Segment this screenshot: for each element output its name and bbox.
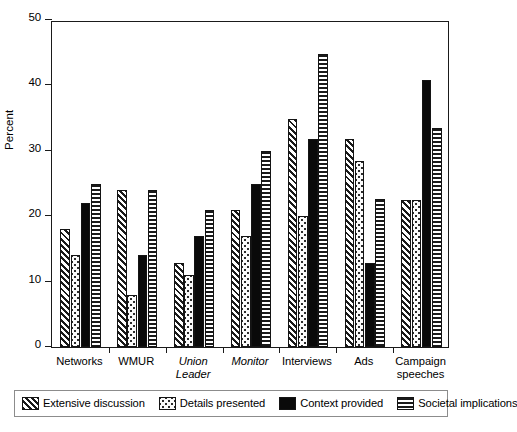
bar <box>308 139 318 347</box>
x-axis-tick <box>166 347 167 353</box>
legend-label: Details presented <box>180 398 265 409</box>
x-axis-labels: NetworksWMURUnionLeaderMonitorInterviews… <box>51 355 449 391</box>
x-axis-label-line: WMUR <box>108 355 165 368</box>
bar <box>174 263 184 347</box>
legend-swatch <box>159 397 176 410</box>
x-axis-label-line: Campaign <box>392 355 449 368</box>
x-axis-tick <box>279 347 280 353</box>
bar <box>261 151 271 347</box>
x-axis-label-line: Leader <box>165 368 222 381</box>
x-axis-tick <box>109 347 110 353</box>
x-axis-label: UnionLeader <box>165 355 222 380</box>
legend-label: Context provided <box>300 398 383 409</box>
x-axis-tick <box>223 347 224 353</box>
bar <box>81 203 91 347</box>
x-axis-label: Monitor <box>222 355 279 368</box>
bar <box>184 275 194 347</box>
bar <box>148 190 158 347</box>
x-axis-label: Interviews <box>278 355 335 368</box>
x-axis-label-line: Monitor <box>222 355 279 368</box>
legend-label: Societal implications <box>418 398 517 409</box>
legend-item: Context provided <box>279 397 383 410</box>
y-axis-tick-label: 10 <box>28 274 41 286</box>
chart-legend: Extensive discussionDetails presentedCon… <box>14 390 448 417</box>
bar-group <box>223 22 280 347</box>
bar <box>241 236 251 347</box>
plot-area: 01020304050 <box>51 21 449 348</box>
y-axis-tick-label: 50 <box>28 12 41 24</box>
bar <box>375 199 385 347</box>
legend-swatch <box>22 397 39 410</box>
legend-swatch <box>279 397 296 410</box>
y-axis-tick-label: 20 <box>28 208 41 220</box>
x-axis-tick <box>393 347 394 353</box>
bar <box>60 229 70 347</box>
bar <box>231 210 241 347</box>
legend-label: Extensive discussion <box>43 398 145 409</box>
y-axis-title: Percent <box>3 110 15 150</box>
y-axis-tick: 40 <box>45 84 52 85</box>
bar <box>205 210 215 347</box>
bar <box>432 128 442 347</box>
bar <box>138 255 148 347</box>
bar-group <box>279 22 336 347</box>
x-axis-label-line: speeches <box>392 368 449 381</box>
x-axis-label-line: Interviews <box>278 355 335 368</box>
bars-layer <box>52 22 448 347</box>
y-axis-tick: 0 <box>45 346 52 347</box>
legend-item: Details presented <box>159 397 265 410</box>
bar <box>288 119 298 347</box>
y-axis-tick-label: 0 <box>35 339 41 351</box>
legend-item: Extensive discussion <box>22 397 145 410</box>
bar <box>401 200 411 347</box>
y-axis-tick: 10 <box>45 281 52 282</box>
bar-group <box>336 22 393 347</box>
bar <box>91 184 101 348</box>
y-axis-tick: 20 <box>45 215 52 216</box>
bar <box>117 190 127 347</box>
y-axis-tick-label: 30 <box>28 143 41 155</box>
x-axis-label-line: Union <box>165 355 222 368</box>
bar-group <box>166 22 223 347</box>
bar-group <box>52 22 109 347</box>
bar-group <box>393 22 450 347</box>
y-axis-tick: 30 <box>45 150 52 151</box>
x-axis-tick <box>336 347 337 353</box>
bar <box>345 139 355 347</box>
x-axis-label-line: Networks <box>51 355 108 368</box>
x-axis-label: Campaignspeeches <box>392 355 449 380</box>
bar <box>298 216 308 347</box>
bar <box>318 54 328 347</box>
bar <box>127 295 137 347</box>
bar-group <box>109 22 166 347</box>
bar <box>422 80 432 347</box>
bar <box>71 255 81 347</box>
bar <box>412 200 422 347</box>
legend-swatch <box>397 397 414 410</box>
bar <box>355 161 365 347</box>
y-axis-tick: 50 <box>45 19 52 20</box>
bar <box>194 236 204 347</box>
y-axis-tick-label: 40 <box>28 77 41 89</box>
x-axis-label: Networks <box>51 355 108 368</box>
x-axis-label-line: Ads <box>335 355 392 368</box>
legend-item: Societal implications <box>397 397 517 410</box>
bar <box>365 263 375 347</box>
x-axis-label: Ads <box>335 355 392 368</box>
bar <box>251 184 261 348</box>
x-axis-label: WMUR <box>108 355 165 368</box>
